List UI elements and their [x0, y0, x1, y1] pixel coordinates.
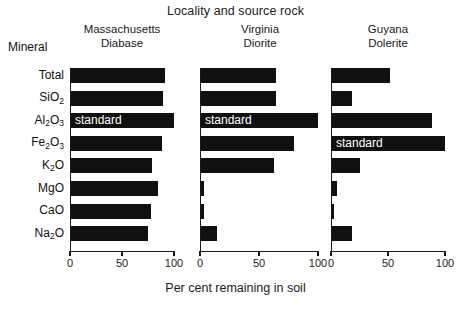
bar-fe2o3 — [200, 136, 294, 151]
x-tick-label: 100 — [309, 257, 327, 269]
y-axis-line — [331, 68, 332, 251]
x-tick — [444, 251, 445, 256]
category-label-na2o: Na2O — [35, 226, 64, 240]
bar-sio2 — [331, 91, 352, 106]
x-tick-label: 50 — [253, 257, 265, 269]
category-label-al2o3: Al2O3 — [35, 113, 64, 127]
bar-al2o3 — [70, 113, 174, 128]
bar-mgo — [70, 181, 158, 196]
x-tick — [330, 251, 331, 256]
panel-title-guyana: GuyanaDolerite — [308, 22, 468, 50]
x-tick — [258, 251, 259, 256]
panel-rock: Dolerite — [308, 36, 468, 50]
y-axis-line — [70, 68, 71, 251]
bar-fe2o3 — [331, 136, 445, 151]
x-tick-label: 0 — [197, 257, 203, 269]
bar-k2o — [70, 158, 152, 173]
bar-fe2o3 — [70, 136, 162, 151]
x-axis-title: Per cent remaining in soil — [0, 281, 471, 295]
x-tick-label: 50 — [382, 257, 394, 269]
bar-cao — [70, 204, 151, 219]
bar-na2o — [70, 226, 148, 241]
x-tick — [69, 251, 70, 256]
category-label-mgo: MgO — [38, 181, 64, 195]
bar-total — [331, 68, 390, 83]
bar-na2o — [331, 226, 352, 241]
panel-locality: Guyana — [308, 22, 468, 36]
bar-total — [70, 68, 165, 83]
x-tick — [121, 251, 122, 256]
bar-na2o — [200, 226, 217, 241]
y-axis-line — [200, 68, 201, 251]
x-tick-label: 0 — [328, 257, 334, 269]
bar-al2o3 — [200, 113, 318, 128]
x-tick-label: 0 — [67, 257, 73, 269]
category-label-total: Total — [39, 68, 64, 82]
x-tick-label: 50 — [116, 257, 128, 269]
bar-sio2 — [200, 91, 276, 106]
category-label-fe2o3: Fe2O3 — [31, 135, 64, 149]
x-tick — [173, 251, 174, 256]
category-label-cao: CaO — [39, 203, 64, 217]
bar-k2o — [331, 158, 360, 173]
category-label-sio2: SiO2 — [39, 90, 64, 104]
category-label-k2o: K2O — [42, 158, 64, 172]
x-tick-label: 100 — [436, 257, 454, 269]
chart-figure: Locality and source rock Mineral Massach… — [0, 0, 471, 309]
x-tick-label: 100 — [165, 257, 183, 269]
chart-title: Locality and source rock — [0, 4, 471, 18]
bar-total — [200, 68, 276, 83]
bar-al2o3 — [331, 113, 432, 128]
category-axis-labels: TotalSiO2Al2O3Fe2O3K2OMgOCaONa2O — [0, 0, 68, 309]
x-tick — [317, 251, 318, 256]
x-tick — [387, 251, 388, 256]
x-tick — [199, 251, 200, 256]
bar-k2o — [200, 158, 274, 173]
bar-sio2 — [70, 91, 163, 106]
